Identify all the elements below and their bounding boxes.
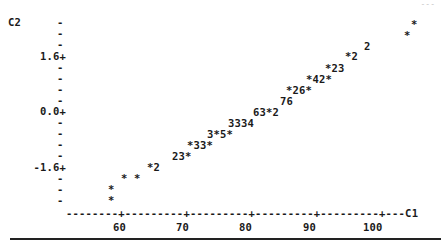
- x-tick-label: 70: [176, 222, 189, 233]
- x-tick-label: 80: [239, 222, 252, 233]
- plot-mark: *: [404, 30, 411, 41]
- y-minor-tick: -: [57, 150, 64, 161]
- y-minor-tick: -: [57, 95, 64, 106]
- plot-mark: 76: [280, 96, 293, 107]
- x-axis-line: --------+---------+---------+---------+-…: [66, 208, 418, 219]
- plot-mark: *2: [147, 162, 160, 173]
- y-minor-tick: -: [57, 195, 64, 206]
- plot-mark: 63*2: [253, 107, 279, 118]
- y-axis-label: C2: [8, 17, 21, 28]
- plot-mark: *: [411, 19, 418, 30]
- x-tick-label: 60: [113, 222, 126, 233]
- plot-mark: *: [134, 173, 141, 184]
- plot-mark: *2: [345, 51, 358, 62]
- x-tick-label: 100: [363, 222, 383, 233]
- bottom-rule: [10, 238, 441, 240]
- plot-mark: 2: [364, 41, 371, 52]
- plot-mark: 23*: [172, 151, 192, 162]
- page-corner-mark: ---: [421, 0, 435, 9]
- plot-mark: *: [121, 173, 128, 184]
- y-minor-tick: -: [57, 39, 64, 50]
- x-tick-label: 90: [303, 222, 316, 233]
- plot-mark: *: [108, 195, 115, 206]
